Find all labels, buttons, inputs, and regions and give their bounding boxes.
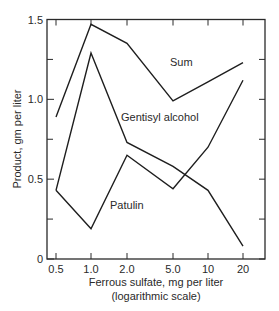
y-axis-label: Product, gm per liter [11,89,23,188]
series-label-patulin: Patulin [110,199,144,211]
x-tick-label: 10 [202,263,214,275]
x-tick-label: 2.0 [119,263,134,275]
y-tick-label: 0.5 [28,173,43,185]
line-chart: 00.51.01.5 0.51.02.05.01020 Sum Gentisyl… [0,0,279,311]
y-tick-label: 1.0 [28,93,43,105]
x-axis-label-note: (logarithmic scale) [111,290,200,302]
series-line-sum [56,24,243,117]
y-tick-label: 1.5 [28,14,43,26]
x-axis-label: Ferrous sulfate, mg per liter [89,276,224,288]
series-label-sum: Sum [170,56,193,68]
x-tick-label: 0.5 [48,263,63,275]
x-tick-label: 5.0 [165,263,180,275]
series-label-gentisyl-alcohol: Gentisyl alcohol [121,111,199,123]
data-lines [56,24,243,246]
y-axis-ticks: 00.51.01.5 [28,14,265,266]
x-tick-label: 20 [237,263,249,275]
x-tick-label: 1.0 [83,263,98,275]
series-line-gentisyl-alcohol [56,53,243,246]
y-tick-label: 0 [37,253,43,265]
